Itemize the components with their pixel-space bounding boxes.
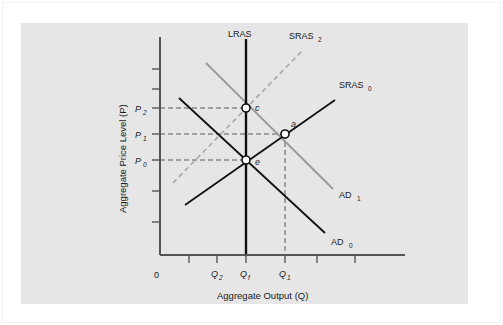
curve-label-lras: LRAS bbox=[228, 29, 252, 39]
x-tick-label-qf-text: Q bbox=[240, 269, 247, 279]
y-tick-label-p0-text: P bbox=[135, 156, 141, 166]
curve-label-ad0-sub: 0 bbox=[349, 242, 353, 249]
y-tick-label-p2-text: P bbox=[135, 104, 141, 114]
point-label-a: a bbox=[291, 119, 296, 129]
point-label-c: c bbox=[255, 103, 260, 113]
x-tick-label-q2-text: Q bbox=[211, 269, 218, 279]
curve-label-sras2-sub: 2 bbox=[318, 36, 322, 43]
point-e-marker bbox=[242, 156, 250, 164]
curve-ad1 bbox=[206, 63, 333, 189]
x-tick-label-qf: Q f bbox=[240, 269, 251, 281]
curve-label-ad1-sub: 1 bbox=[357, 195, 361, 202]
y-tick-label-p2-sub: 2 bbox=[142, 109, 147, 116]
y-tick-label-p1-sub: 1 bbox=[143, 135, 147, 142]
x-tick-label-qf-sub: f bbox=[248, 274, 251, 281]
ad-as-diagram: c a e LRAS SRAS 2 SRAS 0 AD 1 bbox=[21, 23, 468, 304]
curve-label-lras-text: LRAS bbox=[228, 29, 252, 39]
x-tick-label-q2-sub: 2 bbox=[218, 274, 223, 281]
figure-root: c a e LRAS SRAS 2 SRAS 0 AD 1 bbox=[0, 0, 503, 325]
curve-sras2 bbox=[173, 50, 303, 183]
x-tick-label-q1-text: Q bbox=[279, 269, 286, 279]
curve-label-ad0-text: AD bbox=[331, 237, 344, 247]
point-label-e: e bbox=[255, 157, 260, 167]
y-axis-ticks bbox=[152, 69, 160, 222]
curve-ad0 bbox=[179, 98, 325, 233]
curve-label-sras2: SRAS 2 bbox=[289, 31, 322, 43]
origin-label: 0 bbox=[154, 270, 159, 280]
y-tick-label-p0-sub: 0 bbox=[143, 161, 147, 168]
y-tick-label-p0: P 0 bbox=[135, 156, 147, 168]
figure-frame: c a e LRAS SRAS 2 SRAS 0 AD 1 bbox=[2, 2, 501, 323]
axes-group bbox=[152, 37, 405, 263]
curve-label-sras0-sub: 0 bbox=[368, 85, 372, 92]
y-axis-title: Aggregate Price Level (P) bbox=[117, 104, 128, 213]
guide-lines bbox=[160, 108, 285, 255]
curve-label-ad1-text: AD bbox=[339, 190, 352, 200]
x-axis-ticks bbox=[189, 255, 355, 263]
curve-label-ad0: AD 0 bbox=[331, 237, 353, 249]
curve-label-sras2-text: SRAS bbox=[289, 31, 314, 41]
y-tick-label-p2: P 2 bbox=[135, 104, 147, 116]
chart-panel: c a e LRAS SRAS 2 SRAS 0 AD 1 bbox=[21, 23, 468, 304]
curve-label-sras0: SRAS 0 bbox=[339, 80, 372, 92]
x-tick-label-q1: Q 1 bbox=[279, 269, 291, 281]
point-a-marker bbox=[281, 130, 289, 138]
x-axis-title: Aggregate Output (Q) bbox=[217, 290, 308, 301]
point-c-marker bbox=[242, 104, 250, 112]
x-tick-label-q2: Q 2 bbox=[211, 269, 223, 281]
x-tick-label-q1-sub: 1 bbox=[287, 274, 291, 281]
curve-label-sras0-text: SRAS bbox=[339, 80, 364, 90]
y-tick-label-p1: P 1 bbox=[135, 130, 147, 142]
curve-label-ad1: AD 1 bbox=[339, 190, 361, 202]
y-tick-label-p1-text: P bbox=[135, 130, 141, 140]
